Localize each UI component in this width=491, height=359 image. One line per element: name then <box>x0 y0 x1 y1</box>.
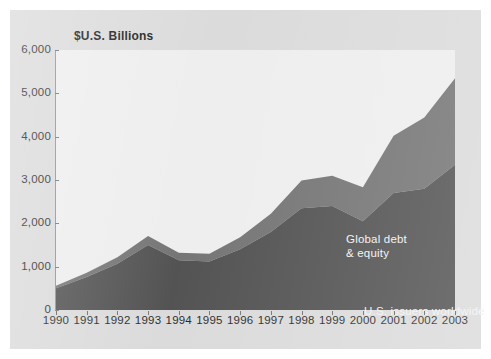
x-tick-mark <box>332 311 333 315</box>
x-tick-label: 1992 <box>104 315 130 327</box>
plot-area: Global debt & equity U.S. issuers worldw… <box>56 50 455 310</box>
y-axis-labels: 01,0002,0003,0004,0005,0006,000 <box>10 10 51 349</box>
x-tick-mark <box>148 311 149 315</box>
x-tick-label: 1999 <box>319 315 345 327</box>
x-tick-label: 2000 <box>350 315 376 327</box>
chart-figure: 01,0002,0003,0004,0005,0006,000 $U.S. Bi… <box>0 0 491 359</box>
x-tick-mark <box>117 311 118 315</box>
x-tick-mark <box>271 311 272 315</box>
x-tick-label: 2001 <box>380 315 406 327</box>
x-tick-mark <box>302 311 303 315</box>
x-tick-mark <box>455 311 456 315</box>
y-tick-mark <box>55 50 59 51</box>
x-tick-label: 1997 <box>258 315 284 327</box>
x-tick-label: 1996 <box>227 315 253 327</box>
x-tick-label: 1995 <box>196 315 222 327</box>
y-tick-label: 4,000 <box>21 131 51 143</box>
chart-panel: 01,0002,0003,0004,0005,0006,000 $U.S. Bi… <box>10 10 481 349</box>
x-tick-label: 1998 <box>288 315 314 327</box>
x-tick-mark <box>56 311 57 315</box>
y-tick-mark <box>55 223 59 224</box>
x-tick-mark <box>87 311 88 315</box>
y-tick-label: 6,000 <box>21 44 51 56</box>
y-tick-mark <box>55 180 59 181</box>
y-tick-mark <box>55 93 59 94</box>
stacked-area-series <box>56 50 455 310</box>
x-tick-label: 2002 <box>411 315 437 327</box>
x-axis-labels: 1990199119921993199419951996199719981999… <box>56 315 455 335</box>
x-tick-mark <box>424 311 425 315</box>
y-tick-mark <box>55 267 59 268</box>
y-tick-label: 1,000 <box>21 261 51 273</box>
x-tick-label: 1991 <box>73 315 99 327</box>
x-tick-mark <box>363 311 364 315</box>
x-tick-mark <box>394 311 395 315</box>
x-tick-label: 1994 <box>166 315 192 327</box>
x-tick-label: 1993 <box>135 315 161 327</box>
y-tick-label: 3,000 <box>21 174 51 186</box>
x-tick-label: 2003 <box>442 315 468 327</box>
x-tick-label: 1990 <box>43 315 69 327</box>
x-tick-mark <box>209 311 210 315</box>
y-tick-mark <box>55 137 59 138</box>
y-axis-title: $U.S. Billions <box>74 29 153 43</box>
x-tick-mark <box>240 311 241 315</box>
y-tick-label: 2,000 <box>21 217 51 229</box>
x-tick-mark <box>179 311 180 315</box>
y-tick-label: 5,000 <box>21 87 51 99</box>
